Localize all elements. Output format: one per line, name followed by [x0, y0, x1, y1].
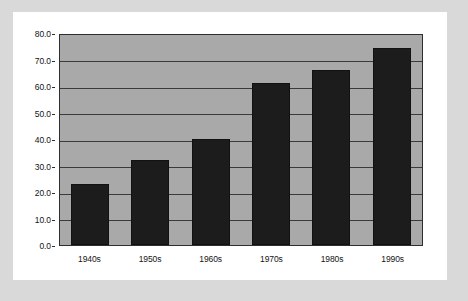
y-axis-tick-mark: [52, 167, 55, 168]
y-axis-tick-mark: [52, 61, 55, 62]
bar-slot: [120, 35, 180, 245]
x-axis-slot: 1950s: [120, 248, 181, 266]
x-axis-tick-label: 1980s: [321, 254, 344, 264]
y-axis-tick-label: 40.0: [35, 135, 51, 145]
y-axis-tick-mark: [52, 246, 55, 247]
y-axis-tick-label: 60.0: [35, 82, 51, 92]
x-axis-tick-label: 1970s: [260, 254, 283, 264]
bar-1970s[interactable]: [252, 83, 290, 245]
x-axis-tick-label: 1940s: [78, 254, 101, 264]
x-axis: 1940s1950s1960s1970s1980s1990s: [59, 248, 423, 266]
bar-slot: [181, 35, 241, 245]
x-axis-slot: 1980s: [302, 248, 363, 266]
bar-1980s[interactable]: [312, 70, 350, 245]
y-axis-tick-label: 70.0: [35, 56, 51, 66]
x-axis-tick-label: 1960s: [199, 254, 222, 264]
y-axis-tick-label: 50.0: [35, 109, 51, 119]
x-axis-slot: 1990s: [362, 248, 423, 266]
y-axis-tick-label: 0.0: [39, 241, 51, 251]
y-axis-tick-label: 10.0: [35, 215, 51, 225]
y-axis-tick-label: 30.0: [35, 162, 51, 172]
bar-series: [60, 35, 422, 245]
bar-slot: [241, 35, 301, 245]
y-axis-tick-mark: [52, 87, 55, 88]
y-axis-tick-label: 20.0: [35, 188, 51, 198]
bar-1950s[interactable]: [131, 160, 169, 245]
x-axis-slot: 1970s: [241, 248, 302, 266]
y-axis-tick-label: 80.0: [35, 29, 51, 39]
bar-1960s[interactable]: [192, 139, 230, 245]
y-axis-tick-mark: [52, 140, 55, 141]
bar-slot: [362, 35, 422, 245]
x-axis-slot: 1940s: [59, 248, 120, 266]
bar-slot: [301, 35, 361, 245]
x-axis-tick-label: 1950s: [139, 254, 162, 264]
chart-card: 0.010.020.030.040.050.060.070.080.0 1940…: [13, 12, 447, 280]
plot-area: [59, 34, 423, 246]
bar-1940s[interactable]: [71, 184, 109, 245]
y-axis-tick-mark: [52, 114, 55, 115]
x-axis-slot: 1960s: [180, 248, 241, 266]
bar-slot: [60, 35, 120, 245]
y-axis: 0.010.020.030.040.050.060.070.080.0: [13, 34, 55, 246]
y-axis-tick-mark: [52, 193, 55, 194]
y-axis-tick-mark: [52, 34, 55, 35]
bar-1990s[interactable]: [373, 48, 411, 245]
y-axis-tick-mark: [52, 220, 55, 221]
plot-wrapper: [59, 34, 423, 246]
x-axis-tick-label: 1990s: [381, 254, 404, 264]
